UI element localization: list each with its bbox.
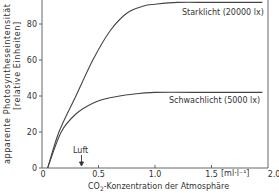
svg-text:2.0: 2.0 [268, 170, 279, 179]
svg-text:40: 40 [27, 92, 37, 101]
starklicht-curve [48, 2, 263, 168]
svg-text:20: 20 [27, 128, 37, 137]
luft-arrow-icon [80, 155, 84, 166]
y-axis-label-unit: [relative Einheiten] [13, 21, 22, 110]
schwachlicht-label: Schwachlicht (5000 lx) [169, 96, 260, 105]
svg-text:0: 0 [40, 170, 45, 179]
axes [42, 0, 268, 168]
svg-text:0.5: 0.5 [92, 170, 105, 179]
svg-text:1.5: 1.5 [205, 170, 218, 179]
svg-text:80: 80 [27, 20, 37, 29]
luft-annotation: Luft [73, 146, 88, 155]
starklicht-label: Starklicht (20000 lx) [182, 8, 264, 17]
x-axis-label: CO2-Konzentration der Atmosphäre [88, 182, 229, 192]
y-axis-label: apparente Photosyntheseintensität [3, 4, 12, 164]
svg-text:60: 60 [27, 56, 37, 65]
svg-text:1.0: 1.0 [149, 170, 162, 179]
x-unit-label: [ml·l⁻¹] [221, 169, 249, 178]
svg-text:0: 0 [32, 164, 37, 173]
y-ticks: 020406080 [27, 20, 42, 173]
photosynthesis-chart: 020406080 00.51.01.52.0 Starklicht (2000… [0, 0, 279, 193]
